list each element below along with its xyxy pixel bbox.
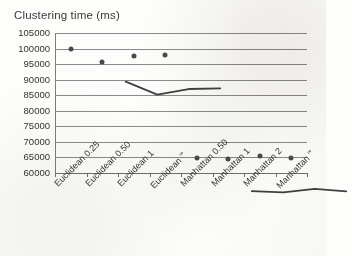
y-tick-label: 105000 bbox=[0, 28, 50, 38]
series-segment-euclidean bbox=[126, 82, 221, 95]
y-tick-label: 85000 bbox=[0, 90, 50, 100]
y-tick-label: 75000 bbox=[0, 121, 50, 131]
y-tick-label: 80000 bbox=[0, 106, 50, 116]
series-segment-manhattan bbox=[252, 189, 347, 192]
y-tick-label: 70000 bbox=[0, 137, 50, 147]
gridline bbox=[55, 49, 307, 50]
y-axis-line bbox=[55, 33, 56, 174]
x-tick bbox=[150, 173, 151, 177]
data-point bbox=[68, 46, 73, 51]
series-polyline-group bbox=[110, 66, 352, 207]
gridline bbox=[55, 64, 307, 65]
data-point bbox=[131, 54, 136, 59]
y-tick-label: 65000 bbox=[0, 152, 50, 162]
data-point bbox=[163, 53, 168, 58]
y-tick-label: 60000 bbox=[0, 168, 50, 178]
y-tick-label: 95000 bbox=[0, 59, 50, 69]
x-tick bbox=[307, 173, 308, 177]
y-tick-label: 90000 bbox=[0, 75, 50, 85]
y-axis-tick-labels: 1050001000009500090000850008000075000700… bbox=[0, 0, 52, 256]
y-tick-label: 100000 bbox=[0, 44, 50, 54]
data-point bbox=[100, 59, 105, 64]
x-tick bbox=[276, 173, 277, 177]
gridline bbox=[55, 33, 307, 34]
data-point bbox=[257, 153, 262, 158]
